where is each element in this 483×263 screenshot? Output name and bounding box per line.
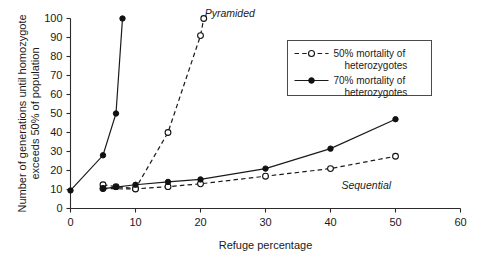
x-tick-label: 30 — [259, 216, 271, 228]
y-tick-label: 40 — [50, 126, 62, 138]
y-axis-title-line2: exceeds 50% of population — [29, 47, 41, 179]
data-point — [113, 184, 118, 189]
data-point — [328, 146, 333, 151]
x-tick-label: 0 — [67, 216, 73, 228]
y-tick-label: 90 — [50, 31, 62, 43]
data-point — [393, 117, 398, 122]
x-tick-label: 50 — [389, 216, 401, 228]
annotation-label: Pyramided — [205, 7, 256, 19]
y-tick-label: 20 — [50, 164, 62, 176]
data-point — [263, 173, 269, 179]
line-chart: 0102030405060708090100 0102030405060 Pyr… — [0, 0, 483, 263]
y-tick-label: 0 — [56, 202, 62, 214]
data-point — [133, 182, 138, 187]
x-tick-label: 20 — [194, 216, 206, 228]
data-point — [165, 130, 171, 136]
y-tick-label: 50 — [50, 107, 62, 119]
x-axis-title: Refuge percentage — [219, 239, 313, 251]
x-tick-label: 40 — [324, 216, 336, 228]
data-point — [100, 153, 105, 158]
y-axis-title-line1: Number of generations until homozygote — [16, 14, 28, 212]
y-tick-label: 80 — [50, 50, 62, 62]
x-tick-label: 60 — [454, 216, 466, 228]
data-point — [328, 166, 334, 172]
data-point — [113, 111, 118, 116]
data-point — [165, 179, 170, 184]
legend-label-line1: 70% mortality of — [334, 75, 406, 86]
data-point — [68, 188, 73, 193]
data-point — [100, 186, 105, 191]
legend-label-line1: 50% mortality of — [334, 48, 406, 59]
chart-figure: 0102030405060708090100 0102030405060 Pyr… — [0, 0, 483, 263]
data-point — [120, 16, 125, 21]
y-tick-label: 30 — [50, 145, 62, 157]
data-point — [198, 33, 204, 39]
legend-marker — [309, 78, 315, 84]
legend-label-line2: heterozygotes — [345, 60, 408, 71]
annotation-label: Sequential — [341, 179, 391, 191]
legend-marker — [309, 51, 315, 57]
x-tick-label: 10 — [129, 216, 141, 228]
y-tick-label: 10 — [50, 183, 62, 195]
data-point — [263, 166, 268, 171]
y-tick-label: 70 — [50, 69, 62, 81]
y-tick-label: 100 — [44, 12, 62, 24]
y-tick-label: 60 — [50, 88, 62, 100]
legend-label-line2: heterozygotes — [345, 87, 408, 98]
data-point — [198, 177, 203, 182]
chart-legend: 50% mortality ofheterozygotes70% mortali… — [288, 41, 432, 99]
data-point — [393, 153, 399, 159]
